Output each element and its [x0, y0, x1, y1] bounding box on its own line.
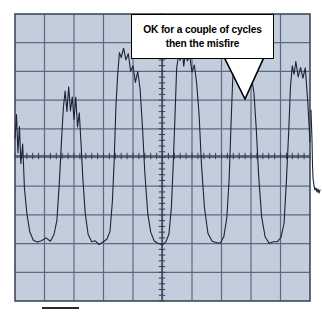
oscilloscope-figure: OK for a couple of cycles then the misfi… — [0, 0, 322, 316]
waveform-trace-right-edge-fragment — [311, 110, 320, 193]
annotation-callout: OK for a couple of cycles then the misfi… — [131, 14, 274, 59]
annotation-line-2: then the misfire — [166, 37, 239, 51]
annotation-callout-text: OK for a couple of cycles then the misfi… — [132, 15, 273, 58]
annotation-line-1: OK for a couple of cycles — [143, 23, 262, 37]
